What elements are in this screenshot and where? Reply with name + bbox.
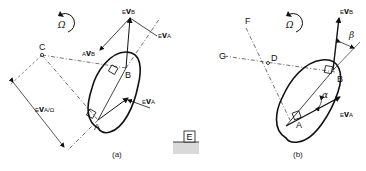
label-c: C [39, 42, 46, 52]
label-eva-body: EvA [142, 96, 155, 106]
extension-b [335, 42, 360, 68]
kinematics-diagram: Ω C EvA/Ω EvB EvA AvB EvA B A [0, 0, 366, 171]
extension-b [126, 18, 160, 68]
point-d [267, 62, 270, 65]
omega-label: Ω [57, 20, 66, 30]
label-a: A [94, 122, 100, 132]
label-evb: EvB [122, 6, 135, 16]
caption-b: (b) [293, 150, 303, 159]
panel-b: Ω D F G β α EvB EvA B A (b) [219, 6, 360, 159]
vector-evb [333, 18, 339, 70]
omega-label: Ω [285, 20, 294, 30]
label-f: F [245, 16, 251, 26]
ground-frame: E [173, 131, 199, 154]
dimension-extension-top [10, 55, 42, 85]
label-e: E [187, 132, 193, 142]
vector-evb [126, 18, 130, 68]
vector-eva-top-line [130, 18, 157, 36]
panel-a: Ω C EvA/Ω EvB EvA AvB EvA B A [10, 6, 171, 159]
dimension-line [13, 82, 64, 147]
rigid-body-outline [88, 52, 140, 133]
line-ab [98, 68, 126, 120]
label-a: A [296, 120, 302, 130]
label-b: B [125, 70, 131, 80]
line-f-a [246, 28, 290, 120]
right-angle-b [324, 66, 332, 74]
label-g: G [219, 51, 226, 61]
label-eva-top: EvA [158, 30, 171, 40]
label-alpha: α [322, 90, 328, 100]
vector-eva-body [98, 98, 128, 120]
label-evb: EvB [340, 6, 353, 16]
ground-fill [173, 142, 199, 154]
vector-eva [286, 97, 340, 126]
vector-avb [100, 18, 130, 50]
caption-a: (a) [112, 150, 122, 159]
label-b: B [337, 74, 343, 84]
line-g-b [224, 56, 335, 72]
dimension-label: EvA/Ω [35, 104, 55, 114]
label-beta: β [348, 30, 354, 40]
label-avb: AvB [82, 48, 95, 58]
label-eva: EvA [340, 109, 353, 119]
angle-beta-arc [340, 42, 354, 48]
label-d: D [271, 53, 278, 63]
